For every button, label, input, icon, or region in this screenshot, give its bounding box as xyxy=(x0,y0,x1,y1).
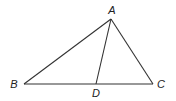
label-d: D xyxy=(92,87,100,99)
label-a: A xyxy=(107,4,115,16)
segment-ac xyxy=(111,19,153,84)
label-b: B xyxy=(10,78,17,90)
label-c: C xyxy=(157,78,165,90)
triangle-diagram: A B C D xyxy=(0,0,176,101)
